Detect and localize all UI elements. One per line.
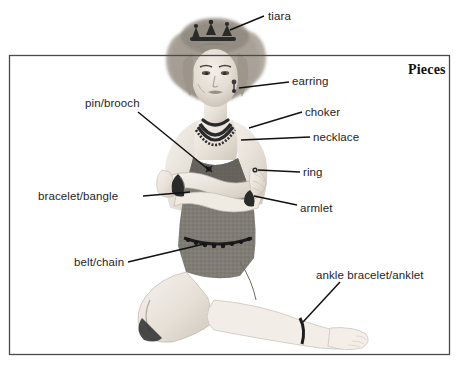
woman-illustration bbox=[138, 18, 368, 350]
leader-ankle-anklet bbox=[303, 282, 340, 322]
label-earring: earring bbox=[292, 75, 329, 87]
label-pin-brooch: pin/brooch bbox=[85, 97, 140, 109]
section-heading: Pieces bbox=[408, 62, 446, 78]
ring-jewelry bbox=[252, 167, 257, 172]
label-necklace: necklace bbox=[313, 131, 359, 143]
label-ring: ring bbox=[303, 166, 323, 178]
figure-canvas: tiara earring pin/brooch choker necklace… bbox=[0, 0, 464, 365]
label-armlet: armlet bbox=[300, 202, 333, 214]
label-belt-chain: belt/chain bbox=[74, 256, 124, 268]
illustration bbox=[0, 0, 464, 365]
label-ankle-anklet: ankle bracelet/anklet bbox=[316, 269, 424, 281]
label-choker: choker bbox=[305, 106, 340, 118]
leader-choker bbox=[249, 112, 302, 128]
label-tiara: tiara bbox=[268, 10, 291, 22]
label-bracelet-bangle: bracelet/bangle bbox=[38, 190, 118, 202]
